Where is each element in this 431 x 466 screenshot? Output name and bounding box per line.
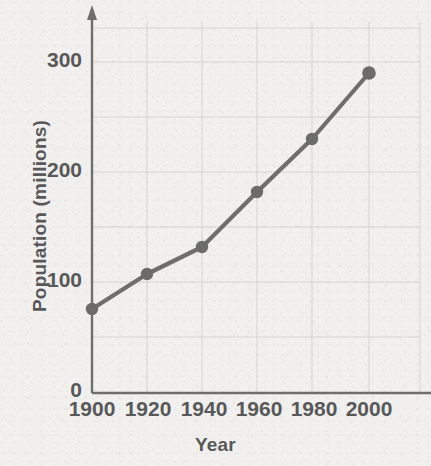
data-point-1920	[141, 268, 153, 280]
data-point-2000	[362, 66, 376, 80]
data-point-1980	[306, 133, 318, 145]
data-point-markers	[86, 66, 376, 315]
data-point-1940	[196, 241, 208, 253]
y-axis-arrowhead	[87, 5, 97, 20]
data-point-1960	[251, 186, 263, 198]
x-tick-label-2000: 2000	[327, 397, 411, 421]
population-line-chart: 300 200 100 0 1900 1920 1940 1960 1980 2…	[0, 0, 431, 466]
y-axis-title: Population (millions)	[29, 66, 51, 366]
population-line	[92, 73, 369, 309]
data-point-1900	[86, 303, 98, 315]
x-axis-title: Year	[0, 434, 431, 456]
